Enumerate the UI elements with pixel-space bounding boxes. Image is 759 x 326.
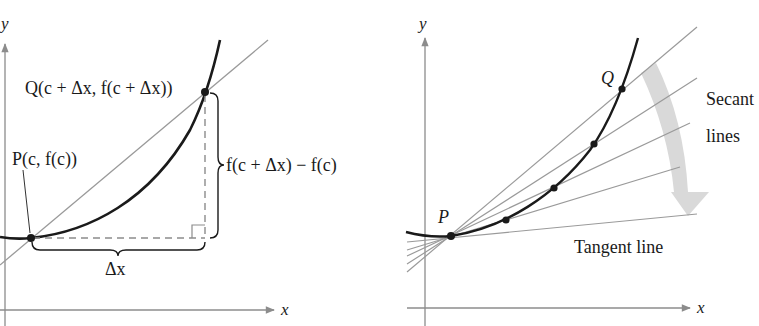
run-label: Δx [105,259,126,279]
left-point-q [201,88,209,96]
right-x-axis-label: x [696,298,705,317]
rise-label: f(c + Δx) − f(c) [226,155,337,176]
right-y-axis-label: y [417,14,427,33]
left-y-axis-label: y [0,14,9,33]
right-q-label: Q [601,68,614,88]
secant-label-line1: Secant [706,89,754,109]
tangent-label: Tangent line [574,237,663,257]
right-point-q [618,85,625,92]
right-point-3 [590,140,597,147]
right-p-label: P [437,207,449,227]
run-brace [32,242,205,256]
right-point-p [447,232,455,240]
left-point-p [27,234,35,242]
diagram-canvas: y x Q(c + Δx, f(c + Δx)) P(c, f(c)) f(c … [0,0,759,326]
right-figure: y x P Q Secant lines Tangent line [406,14,754,326]
right-angle-mark [192,225,205,238]
right-point-1 [502,216,509,223]
left-figure: y x Q(c + Δx, f(c + Δx)) P(c, f(c)) f(c … [0,14,337,326]
left-q-label: Q(c + Δx, f(c + Δx)) [25,78,172,99]
rotation-arrow [641,63,709,216]
left-p-label: P(c, f(c)) [12,149,77,170]
right-point-2 [550,184,557,191]
left-curve [0,40,220,239]
secant-label-line2: lines [706,126,740,146]
p-leader-line [23,170,30,233]
rise-brace [210,93,224,238]
left-x-axis-label: x [280,300,289,319]
